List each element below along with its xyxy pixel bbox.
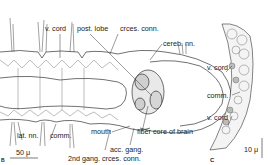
label-2nd-gang-crces-conn: 2nd gang. crces. conn. <box>68 155 141 163</box>
label-v-cord: v. cord <box>45 25 66 33</box>
label-fiber-core-of-brain: fiber core of brain <box>137 128 193 136</box>
scale-bar-label-b: 50 μ <box>16 149 30 157</box>
panel-letter-c: C <box>210 157 214 163</box>
label-v-cord-c-bottom: v. cord <box>207 114 228 122</box>
label-comm-c: comm. <box>207 92 229 100</box>
label-crces-conn: crces. conn. <box>120 25 159 33</box>
label-mouth: mouth <box>91 128 111 136</box>
label-lat-nn: lat. nn. <box>17 132 39 140</box>
label-comm: comm. <box>50 132 72 140</box>
label-acc-gang: acc. gang. <box>110 146 143 154</box>
label-v-cord-c-top: v. cord <box>207 64 228 72</box>
scale-bar-label-c: 10 μ <box>244 146 258 154</box>
panel-letter-b: B <box>1 157 5 163</box>
label-post-lobe: post. lobe <box>77 25 108 33</box>
label-cereb-nn: cereb. nn. <box>163 40 195 48</box>
